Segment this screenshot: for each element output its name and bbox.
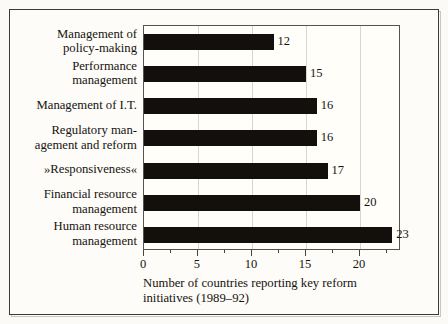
category-label: »Responsiveness« (10, 162, 143, 177)
bar (144, 195, 360, 211)
x-tick-minor (224, 250, 225, 253)
category-label-line: management (10, 73, 137, 88)
bar (144, 66, 306, 82)
bar-row: 23 (144, 219, 399, 251)
bar-value-label: 17 (332, 162, 345, 179)
bar-row: 15 (144, 58, 399, 90)
x-tick-minor (278, 250, 279, 253)
bar-value-label: 20 (364, 194, 377, 211)
category-label: Financial resourcemanagement (10, 187, 143, 216)
bar (144, 163, 328, 179)
bar-row: 17 (144, 155, 399, 187)
x-tick-major (251, 250, 252, 256)
x-tick-major (197, 250, 198, 256)
bar-value-label: 15 (310, 65, 323, 82)
bar-row: 16 (144, 90, 399, 122)
category-label-line: Regulatory man- (10, 123, 137, 138)
bar (144, 130, 317, 146)
category-label: Human resourcemanagement (10, 219, 143, 248)
category-label-line: Human resource (10, 219, 137, 234)
bar (144, 98, 317, 114)
x-tick-minor (170, 250, 171, 253)
x-axis-caption: Number of countries reporting key reform… (143, 276, 433, 306)
category-label-line: Performance (10, 59, 137, 74)
category-label-line: Financial resource (10, 187, 137, 202)
x-tick-label: 20 (353, 257, 366, 272)
category-label: Management ofpolicy-making (10, 27, 143, 56)
bar (144, 34, 274, 50)
category-label-line: Management of (10, 27, 137, 42)
bar-value-label: 12 (278, 33, 291, 50)
figure-container: Management ofpolicy-makingPerformanceman… (0, 0, 448, 324)
x-tick-label: 15 (299, 257, 312, 272)
x-tick-label: 0 (140, 257, 146, 272)
x-tick-major (143, 250, 144, 256)
bar-value-label: 23 (396, 226, 409, 243)
x-tick-label: 10 (245, 257, 258, 272)
plot-area: 12151616172023 (143, 25, 400, 250)
bar-value-label: 16 (321, 97, 334, 114)
category-axis-labels: Management ofpolicy-makingPerformanceman… (0, 25, 143, 250)
category-label-line: »Responsiveness« (10, 162, 137, 177)
bar-row: 20 (144, 187, 399, 219)
x-tick-label: 5 (194, 257, 200, 272)
x-tick-major (305, 250, 306, 256)
bar-value-label: 16 (321, 129, 334, 146)
category-label: Regulatory man-agement and reform (10, 123, 143, 152)
category-label: Management of I.T. (10, 98, 143, 113)
bar (144, 227, 392, 243)
bar-row: 12 (144, 26, 399, 58)
category-label-line: management (10, 234, 137, 249)
category-label-line: policy-making (10, 41, 137, 56)
x-axis-caption-line: initiatives (1989–92) (143, 291, 433, 306)
category-label: Performancemanagement (10, 59, 143, 88)
x-tick-major (359, 250, 360, 256)
bar-chart: Management ofpolicy-makingPerformanceman… (0, 0, 448, 324)
x-axis-caption-line: Number of countries reporting key reform (143, 276, 433, 291)
category-label-line: Management of I.T. (10, 98, 137, 113)
x-axis: 05101520 (143, 250, 400, 276)
category-label-line: agement and reform (10, 138, 137, 153)
x-tick-minor (332, 250, 333, 253)
category-label-line: management (10, 202, 137, 217)
x-tick-minor (386, 250, 387, 253)
bar-row: 16 (144, 122, 399, 154)
